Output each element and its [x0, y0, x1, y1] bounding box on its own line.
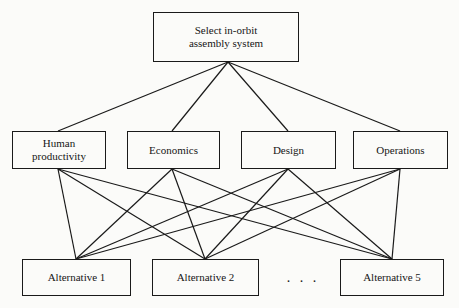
edge-economics-to-alternative-5	[172, 169, 392, 259]
alternative-label: Alternative 2	[174, 271, 238, 284]
edge-human-productivity-to-alternative-1	[58, 169, 76, 259]
alternative-node-1[interactable]: Alternative 1	[22, 259, 131, 296]
edge-goal-to-operations	[228, 62, 400, 131]
alternative-node-5[interactable]: Alternative 5	[340, 259, 444, 296]
edge-goal-to-design	[228, 62, 288, 131]
criterion-node-design[interactable]: Design	[241, 131, 336, 169]
edge-goal-to-human-productivity	[58, 62, 228, 131]
edge-design-to-alternative-2	[205, 169, 288, 259]
alternative-node-2[interactable]: Alternative 2	[152, 259, 259, 296]
criterion-label: Design	[270, 144, 307, 157]
edge-economics-to-alternative-2	[172, 169, 205, 259]
criterion-node-operations[interactable]: Operations	[353, 131, 448, 169]
ellipsis-indicator: . . .	[283, 267, 323, 289]
edge-operations-to-alternative-2	[205, 169, 400, 259]
goal-node-label: Select in-orbit assembly system	[186, 24, 266, 50]
hierarchy-diagram: Select in-orbit assembly system Human pr…	[0, 0, 459, 308]
criterion-node-economics[interactable]: Economics	[127, 131, 220, 169]
criterion-label: Operations	[373, 144, 427, 157]
criterion-label: Human productivity	[29, 137, 89, 163]
alternative-label: Alternative 1	[45, 271, 109, 284]
edge-operations-to-alternative-5	[392, 169, 400, 259]
criterion-node-human-productivity[interactable]: Human productivity	[12, 131, 106, 169]
goal-node[interactable]: Select in-orbit assembly system	[153, 12, 299, 62]
criterion-label: Economics	[146, 144, 201, 157]
edge-goal-to-economics	[172, 62, 228, 131]
alternative-label: Alternative 5	[360, 271, 424, 284]
